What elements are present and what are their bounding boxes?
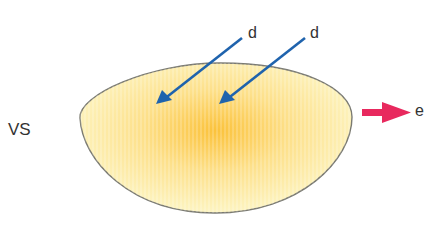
- output-arrow: [362, 102, 411, 123]
- left-label-vs: VS: [8, 121, 31, 138]
- output-label-e: e: [415, 103, 424, 119]
- diagram-canvas: [0, 0, 434, 232]
- input-label-d-2: d: [310, 25, 319, 41]
- bowl-body: [80, 63, 352, 213]
- input-label-d-1: d: [248, 25, 257, 41]
